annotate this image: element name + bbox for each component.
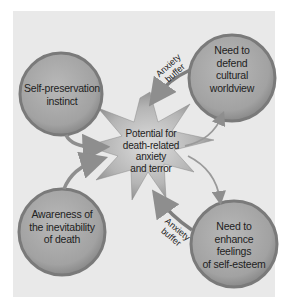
center-label: Potential for death-related anxiety and …	[112, 128, 190, 174]
node-label-line: Awareness of	[20, 208, 104, 221]
node-label-line: Need to	[192, 220, 276, 233]
center-label-line: Potential for	[112, 128, 190, 140]
center-label-line: death-related	[112, 140, 190, 152]
node-label-cultural-worldview: Need to defend cultural worldview	[192, 44, 272, 94]
node-label-line: enhance	[192, 233, 276, 246]
node-label-line: defend	[192, 57, 272, 70]
arrow-awareness-to-star	[64, 160, 98, 189]
center-label-line: anxiety	[112, 151, 190, 163]
center-label-line: and terror	[112, 163, 190, 175]
node-label-line: of self-esteem	[192, 258, 276, 271]
node-label-line: worldview	[192, 82, 272, 95]
node-label-self-esteem: Need to enhance feelings of self-esteem	[192, 220, 276, 270]
node-label-line: Need to	[192, 44, 272, 57]
node-label-awareness-death: Awareness of the inevitability of death	[20, 208, 104, 246]
node-label-line: cultural	[192, 69, 272, 82]
node-label-line: feelings	[192, 245, 276, 258]
arrow-star-to-self-esteem	[188, 156, 220, 200]
node-label-line: of death	[20, 233, 104, 246]
node-label-line: instinct	[21, 95, 103, 108]
node-label-line: Self-preservation	[21, 82, 103, 95]
node-label-line: the inevitability	[20, 221, 104, 234]
node-label-self-preservation: Self-preservation instinct	[21, 82, 103, 107]
